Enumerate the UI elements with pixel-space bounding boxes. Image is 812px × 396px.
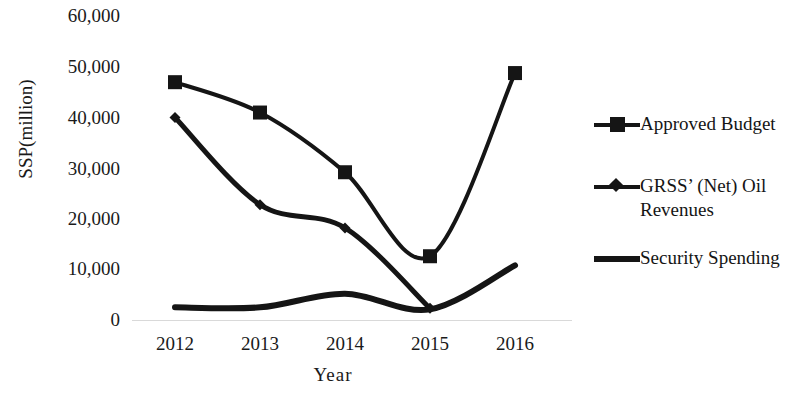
data-point-square-marker	[338, 165, 352, 179]
legend-label: Approved Budget	[640, 112, 776, 136]
legend-item-security-spending[interactable]: Security Spending	[594, 246, 812, 270]
square-marker-icon	[594, 114, 640, 136]
diamond-marker-icon	[594, 176, 640, 198]
legend-item-approved-budget[interactable]: Approved Budget	[594, 112, 812, 136]
data-point-square-marker	[423, 249, 437, 263]
x-axis-title: Year	[268, 364, 398, 386]
x-tick-label: 2014	[300, 334, 390, 353]
x-tick-label: 2015	[385, 334, 475, 353]
legend-label-line2: Revenues	[640, 199, 714, 220]
data-point-square-marker	[168, 75, 182, 89]
x-tick-label: 2016	[470, 334, 560, 353]
series-line	[175, 265, 515, 310]
legend-item-grss-net-oil-revenues[interactable]: GRSS’ (Net) OilRevenues	[594, 174, 812, 222]
data-point-square-marker	[253, 106, 267, 120]
series-line	[175, 118, 430, 309]
legend-label: GRSS’ (Net) OilRevenues	[640, 174, 766, 222]
x-tick-label: 2013	[215, 334, 305, 353]
legend-label: Security Spending	[640, 246, 780, 270]
legend-label-line1: GRSS’ (Net) Oil	[640, 175, 766, 196]
x-tick-label: 2012	[130, 334, 220, 353]
chart-figure: 60,000 50,000 40,000 30,000 20,000 10,00…	[0, 0, 812, 396]
data-point-square-marker	[508, 66, 522, 80]
line-marker-icon	[594, 248, 640, 270]
